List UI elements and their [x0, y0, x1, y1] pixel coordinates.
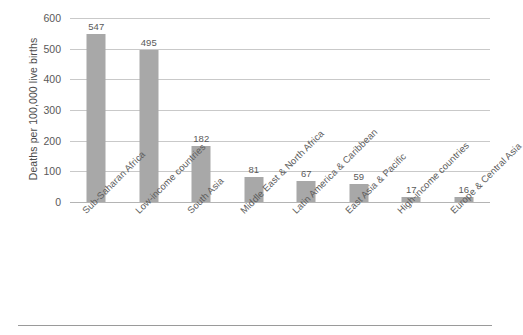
gridline: 0 [70, 202, 490, 203]
y-tick-label: 600 [43, 12, 61, 24]
bar-value-label: 81 [248, 164, 259, 175]
bar[interactable] [87, 34, 106, 202]
y-tick-label: 200 [43, 135, 61, 147]
x-axis-category-labels: Sub-Saharan AfricaLow-income countriesSo… [70, 204, 490, 304]
bar-value-label: 495 [141, 37, 157, 48]
y-tick-label: 100 [43, 165, 61, 177]
y-tick-label: 300 [43, 104, 61, 116]
bar-value-label: 67 [301, 168, 312, 179]
y-tick-label: 500 [43, 43, 61, 55]
footer-divider [18, 325, 492, 326]
y-tick-label: 0 [55, 196, 61, 208]
y-tick-label: 400 [43, 73, 61, 85]
y-axis-title: Deaths per 100,000 live births [27, 14, 39, 204]
bar-value-label: 547 [88, 21, 104, 32]
bar[interactable] [139, 50, 158, 202]
bar-value-label: 59 [353, 171, 364, 182]
